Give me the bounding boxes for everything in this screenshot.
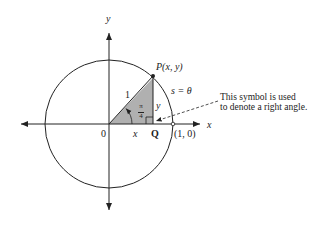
- annotation-line2: to denote a right angle.: [220, 102, 307, 112]
- unit-circle-diagram: [0, 0, 332, 228]
- annotation-leader: [156, 101, 218, 121]
- hypotenuse-label: 1: [125, 90, 130, 100]
- annotation-line1: This symbol is used: [220, 92, 296, 102]
- origin-label: 0: [101, 129, 106, 139]
- point-p: [151, 74, 155, 78]
- angle-denominator: 4: [138, 112, 144, 120]
- point-q-label: Q: [151, 129, 159, 139]
- point-one-zero-label: (1, 0): [174, 129, 196, 139]
- arc-label: s = θ: [171, 86, 192, 96]
- opposite-label: y: [156, 101, 160, 111]
- point-p-label: P(x, y): [156, 62, 183, 72]
- y-axis-label: y: [106, 14, 110, 24]
- point-one-zero: [171, 122, 175, 126]
- x-axis-label: x: [207, 120, 211, 130]
- angle-numerator: π: [138, 103, 144, 110]
- adjacent-label: x: [133, 129, 137, 139]
